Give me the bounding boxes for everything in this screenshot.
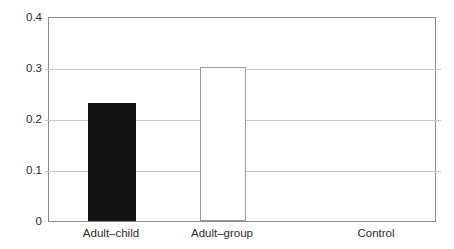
x-tick-label-control: Control (357, 228, 394, 240)
bar-adult-child (88, 103, 136, 221)
y-tick-label-2: 0.2 (26, 114, 42, 126)
plot-area (48, 17, 436, 222)
y-tick-label-1: 0.1 (26, 165, 42, 177)
bar-adult-group (200, 67, 246, 221)
y-tick-label-0: 0 (36, 216, 42, 228)
bar-chart: 0 0.1 0.2 0.3 0.4 Adult–child Adult–grou… (0, 0, 454, 249)
y-tick-label-3: 0.3 (26, 63, 42, 75)
x-tick-label-adult-child: Adult–child (83, 228, 139, 240)
x-tick-label-adult-group: Adult–group (191, 228, 253, 240)
y-axis: 0 0.1 0.2 0.3 0.4 (0, 0, 42, 249)
y-tick-label-4: 0.4 (26, 12, 42, 24)
